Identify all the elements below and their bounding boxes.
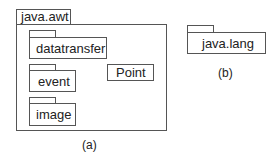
- caption-a: (a): [82, 139, 97, 151]
- subpackage-datatransfer-label: datatransfer: [36, 42, 105, 55]
- package-java-lang-label: java.lang: [202, 37, 254, 50]
- package-java-awt-label: java.awt: [21, 10, 69, 23]
- caption-b: (b): [218, 67, 233, 79]
- subpackage-image-label: image: [36, 108, 71, 121]
- class-point-label: Point: [116, 66, 146, 79]
- subpackage-event-label: event: [38, 75, 70, 88]
